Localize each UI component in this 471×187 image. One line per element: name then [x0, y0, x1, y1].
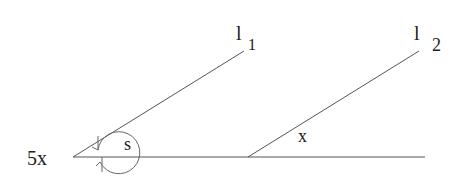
label-moment: 5x — [27, 147, 47, 169]
moment-circle-icon — [92, 132, 140, 174]
line-l2 — [248, 51, 419, 157]
line-l1 — [73, 51, 244, 157]
label-l2-sub: 2 — [432, 35, 441, 55]
label-l2: l — [414, 22, 420, 44]
label-l1-sub: 1 — [248, 36, 256, 53]
diagram-canvas: l 1 l 2 s x 5x — [0, 0, 471, 187]
label-s: s — [124, 134, 131, 154]
label-x: x — [298, 126, 307, 146]
label-l1: l — [236, 22, 242, 44]
